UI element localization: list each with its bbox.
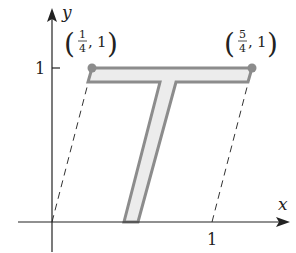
svg-text:1: 1 [79, 28, 86, 41]
svg-text:(: ( [64, 27, 75, 60]
svg-text:,: , [248, 33, 253, 51]
svg-text:): ) [267, 27, 278, 60]
svg-text:1: 1 [257, 33, 267, 51]
svg-text:(: ( [224, 27, 235, 60]
point-quarter-one [88, 64, 97, 73]
right-shear-guide [212, 68, 252, 222]
svg-text:4: 4 [79, 42, 86, 55]
svg-text:5: 5 [239, 28, 246, 41]
sheared-t-shape [88, 68, 252, 222]
svg-text:1: 1 [97, 33, 107, 51]
sheared-t-diagram: x y 1 1 ( 1 4 , 1 ) ( 5 4 , 1 ) [0, 0, 296, 253]
point-label-five-quarters-one: ( 5 4 , 1 ) [224, 27, 278, 60]
x-axis-label: x [278, 194, 288, 214]
y-axis-label: y [61, 2, 72, 22]
x-tick-label: 1 [207, 230, 217, 249]
left-shear-guide [52, 68, 92, 222]
svg-text:): ) [107, 27, 118, 60]
y-tick-label: 1 [35, 59, 45, 78]
svg-text:,: , [88, 33, 93, 51]
point-five-quarters-one [248, 64, 257, 73]
point-label-quarter-one: ( 1 4 , 1 ) [64, 27, 118, 60]
svg-text:4: 4 [239, 42, 246, 55]
